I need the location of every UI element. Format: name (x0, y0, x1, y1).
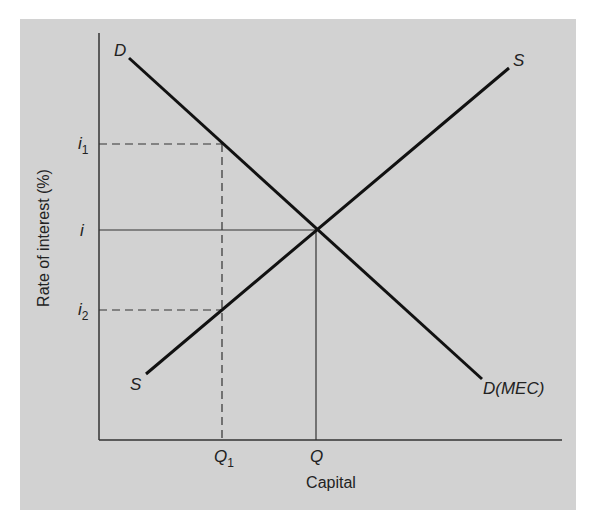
demand-bottom-label: D(MEC) (483, 379, 544, 398)
supply-demand-diagram: D D(MEC) S S i1 i i2 Q1 Q Capital Rate o… (0, 0, 596, 524)
y-tick-i1: i1 (78, 134, 89, 157)
y-tick-i2: i2 (78, 300, 89, 323)
supply-top-label: S (513, 51, 525, 70)
y-axis-title: Rate of interest (%) (35, 169, 52, 307)
demand-curve (129, 58, 482, 379)
supply-bottom-label: S (130, 375, 142, 394)
x-tick-q1: Q1 (214, 447, 234, 470)
demand-top-label: D (114, 41, 126, 60)
y-tick-i: i (80, 221, 85, 240)
supply-curve (146, 68, 509, 374)
x-axis-title: Capital (306, 474, 356, 491)
x-tick-q: Q (310, 447, 323, 466)
